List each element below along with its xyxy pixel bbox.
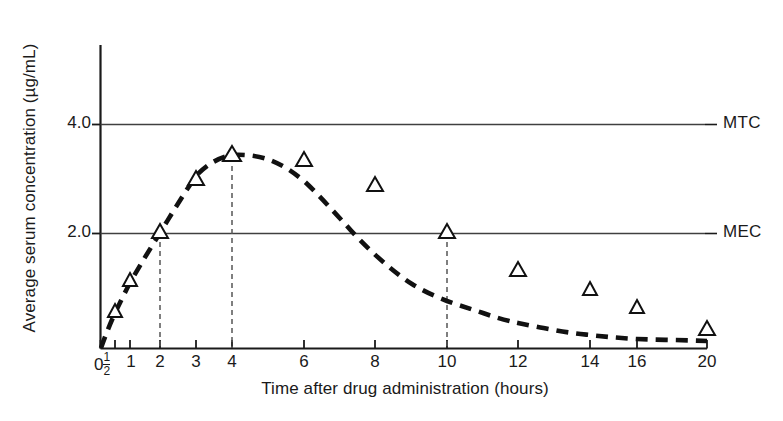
x-tick-label-14: 14: [573, 352, 607, 372]
data-point-2h: [152, 224, 168, 238]
x-tick-label-16: 16: [620, 352, 654, 372]
x-axis-ticks: [101, 340, 708, 349]
x-tick-label-3: 3: [179, 352, 213, 372]
x-tick-label-8: 8: [358, 352, 392, 372]
x-tick-label-12: 12: [501, 352, 535, 372]
reference-label-leaders: [705, 125, 717, 234]
x-tick-label-10: 10: [430, 352, 464, 372]
x-tick-label-0-and-half: 012: [94, 352, 110, 378]
mtc-label: MTC: [723, 113, 761, 133]
data-point-20h: [699, 321, 715, 335]
data-point-14h: [583, 282, 597, 295]
data-point-10h: [439, 224, 455, 238]
y-tick-label-2: 2.0: [45, 222, 91, 242]
x-tick-label-half: 12: [103, 351, 110, 377]
x-tick-label-6: 6: [287, 352, 321, 372]
y-axis-title: Average serum concentration (µg/mL): [14, 8, 46, 368]
pharmacokinetics-chart: Average serum concentration (µg/mL) Time…: [0, 0, 783, 421]
data-point-12h: [510, 262, 526, 276]
x-tick-label-20: 20: [690, 352, 724, 372]
data-point-16h: [630, 300, 644, 313]
x-tick-label-4: 4: [215, 352, 249, 372]
mec-label: MEC: [723, 222, 762, 242]
x-tick-label-2: 2: [143, 352, 177, 372]
data-point-markers: [108, 146, 715, 335]
data-point-6h: [296, 152, 312, 166]
data-point-8h: [367, 177, 383, 191]
x-axis-title: Time after drug administration (hours): [100, 379, 710, 399]
y-axis-ticks: [92, 125, 101, 234]
x-tick-label-0: 0: [94, 355, 103, 374]
y-tick-label-4: 4.0: [45, 113, 91, 133]
